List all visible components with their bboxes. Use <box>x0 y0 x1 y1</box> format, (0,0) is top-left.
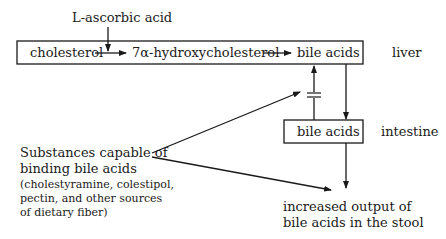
node-bile-acids-intestine: bile acids <box>297 124 360 139</box>
region-intestine-label: intestine <box>381 124 439 139</box>
region-liver-label: liver <box>392 45 422 60</box>
outcome-line-2: bile acids in the stool <box>283 215 424 230</box>
binders-examples-2: pectin, and other sources <box>20 192 162 205</box>
node-7a-hydroxycholesterol: 7α-hydroxycholesterol <box>132 45 279 60</box>
binders-examples-1: (cholestyramine, colestipol, <box>20 178 174 191</box>
binders-title-1: Substances capable of <box>20 145 167 160</box>
binders-examples-3: of dietary fiber) <box>20 206 108 219</box>
outcome-line-1: increased output of <box>283 199 411 214</box>
arrow-binders-to-stool <box>152 157 331 190</box>
arrow-binders-to-block <box>152 92 300 153</box>
ascorbic-acid-label: L-ascorbic acid <box>72 10 172 25</box>
binders-title-2: binding bile acids <box>20 161 137 176</box>
node-cholesterol: cholesterol <box>30 45 103 60</box>
node-bile-acids-liver: bile acids <box>297 45 360 60</box>
